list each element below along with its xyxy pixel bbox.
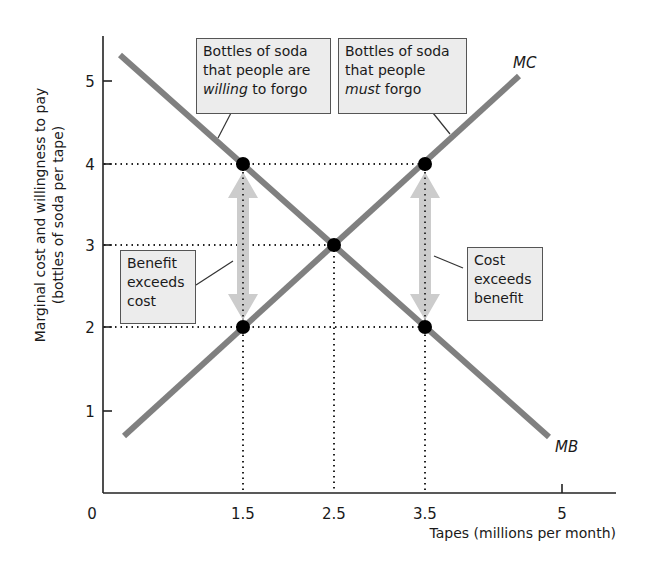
- y-axis-title: Marginal cost and willingness to pay (bo…: [32, 88, 66, 343]
- y-tick-4: 4: [85, 156, 95, 174]
- y-axis-title-line1: Marginal cost and willingness to pay: [32, 88, 48, 343]
- annotation-must-forgo: Bottles of soda that people must forgo: [338, 38, 467, 114]
- leader-must: [433, 113, 450, 134]
- leader-benefit: [196, 261, 233, 285]
- mb-label: MB: [555, 438, 578, 456]
- guide-lines: [104, 164, 425, 492]
- x-tick-1-5: 1.5: [231, 505, 255, 523]
- point-equilibrium: [327, 238, 341, 252]
- x-tick-3-5: 3.5: [413, 505, 437, 523]
- x-tick-5: 5: [557, 505, 567, 523]
- x-tick-2-5: 2.5: [322, 505, 346, 523]
- annotation-benefit-exceeds-cost: Benefit exceeds cost: [120, 250, 196, 324]
- x-tick-0: 0: [87, 505, 97, 523]
- point-3-5-2: [418, 320, 432, 334]
- point-1-5-2: [236, 320, 250, 334]
- point-1-5-4: [236, 157, 250, 171]
- y-tick-3: 3: [85, 237, 95, 255]
- leader-cost: [434, 256, 463, 268]
- y-axis-title-line2: (bottles of soda per tape): [50, 126, 66, 305]
- point-3-5-4: [418, 157, 432, 171]
- mc-label: MC: [513, 54, 537, 72]
- annotation-cost-exceeds-benefit: Cost exceeds benefit: [467, 247, 543, 321]
- y-tick-5: 5: [85, 73, 95, 91]
- leader-willing: [218, 113, 231, 138]
- annotation-willing-to-forgo: Bottles of soda that people are willing …: [196, 38, 331, 114]
- x-axis-title: Tapes (millions per month): [428, 525, 616, 541]
- y-tick-2: 2: [85, 319, 95, 337]
- y-tick-1: 1: [85, 403, 95, 421]
